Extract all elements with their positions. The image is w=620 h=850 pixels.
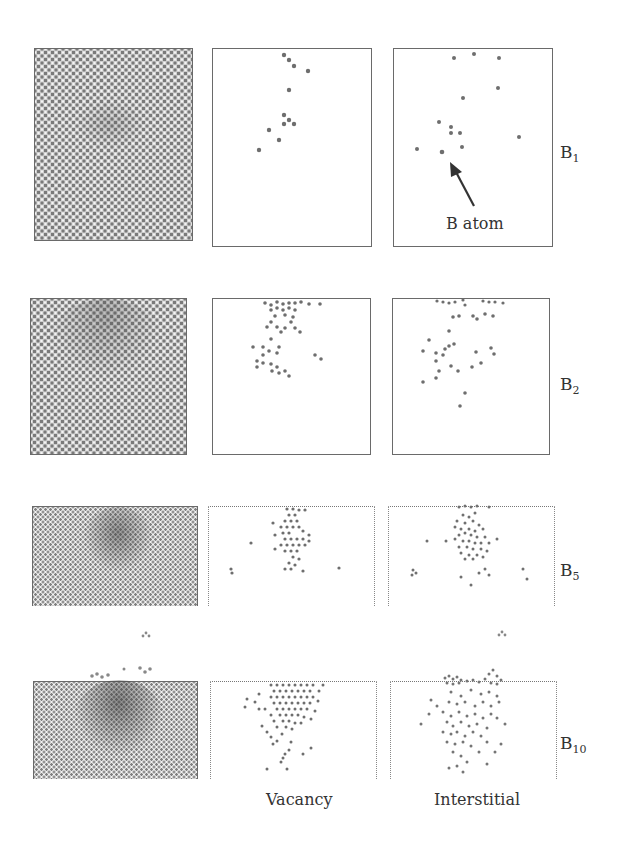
interstitial-points — [391, 682, 558, 780]
row-label-main: B — [560, 733, 573, 753]
damage-region — [51, 299, 161, 379]
vacancy-panel-b10 — [210, 681, 377, 779]
lattice-panel-b1 — [34, 48, 193, 241]
vacancy-panel-b2 — [212, 298, 371, 455]
lattice-panel-b5 — [32, 506, 198, 606]
lattice-panel-b10 — [33, 681, 198, 779]
interstitial-panel-b5 — [388, 506, 555, 606]
row-label-b2: B2 — [560, 374, 580, 397]
vacancy-points — [213, 299, 372, 456]
vacancy-points — [211, 682, 378, 780]
vacancy-points — [213, 49, 373, 248]
lattice-panel-b2 — [30, 298, 187, 455]
interstitial-points — [389, 507, 556, 607]
vacancy-panel-b1 — [212, 48, 372, 247]
row-label-main: B — [560, 374, 573, 394]
row-label-main: B — [560, 560, 573, 580]
vacancy-panel-b5 — [208, 506, 375, 606]
row-label-sub: 5 — [573, 570, 580, 583]
row-label-b10: B10 — [560, 733, 587, 756]
row-label-b1: B1 — [560, 142, 580, 165]
damage-region — [83, 507, 153, 572]
column-label-interstitial: Interstitial — [434, 790, 520, 809]
interstitial-panel-b10 — [390, 681, 557, 779]
vacancy-points — [209, 507, 376, 607]
interstitial-points — [393, 299, 551, 456]
row-label-sub: 1 — [573, 152, 580, 165]
row-label-b5: B5 — [560, 560, 580, 583]
b-atom-label: B atom — [446, 214, 504, 233]
row-label-main: B — [560, 142, 573, 162]
column-label-vacancy: Vacancy — [266, 790, 332, 809]
damage-region — [75, 99, 145, 149]
damage-region — [74, 680, 164, 755]
row-label-sub: 2 — [573, 384, 580, 397]
row-label-sub: 10 — [573, 743, 587, 756]
interstitial-panel-b2 — [392, 298, 550, 455]
